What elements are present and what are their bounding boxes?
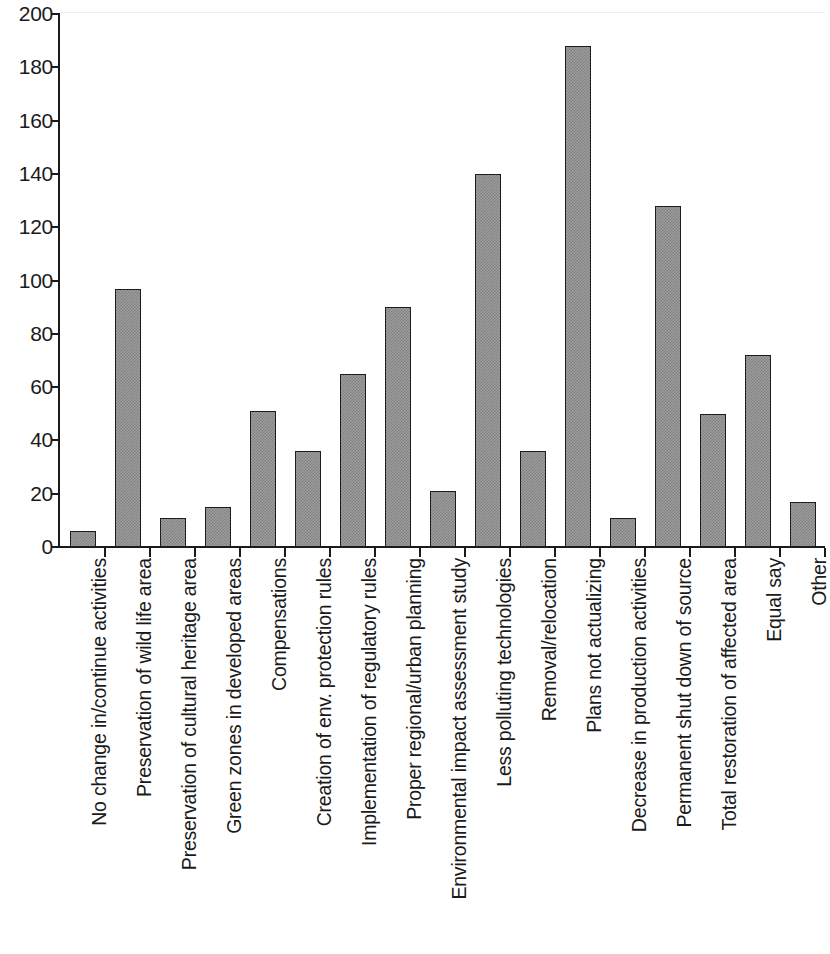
x-axis-label: Implementation of regulatory rules	[360, 558, 380, 846]
y-axis-tick	[52, 226, 60, 228]
y-axis-tick	[52, 439, 60, 441]
x-axis-label-text: Green zones in developed areas	[225, 558, 245, 834]
x-axis-tick	[644, 548, 646, 557]
x-axis-label-text: Equal say	[765, 558, 785, 642]
bar	[160, 518, 186, 547]
x-axis-label: No change in/continue activities	[90, 558, 110, 826]
y-axis-tick-label: 20	[0, 483, 53, 504]
x-axis-label-text: No change in/continue activities	[90, 558, 110, 826]
x-axis-label-text: Other	[810, 558, 830, 606]
x-axis-label: Compensations	[270, 558, 290, 691]
x-axis-tick	[239, 548, 241, 557]
bar	[475, 174, 501, 547]
x-axis-label-text: Proper regional/urban planning	[405, 558, 425, 820]
x-axis-tick	[689, 548, 691, 557]
x-axis-label: Preservation of wild life area	[135, 558, 155, 797]
bar	[205, 507, 231, 547]
x-axis-label-text: Preservation of wild life area	[135, 558, 155, 797]
y-axis-tick	[52, 546, 60, 548]
bar	[610, 518, 636, 547]
y-axis-tick	[52, 66, 60, 68]
y-axis-tick-label: 60	[0, 376, 53, 397]
x-axis-label: Plans not actualizing	[585, 558, 605, 733]
x-axis-label: Removal/relocation	[540, 558, 560, 721]
bar	[250, 411, 276, 547]
x-axis-tick	[374, 548, 376, 557]
x-axis-label-text: Decrease in production activities	[630, 558, 650, 832]
y-axis-tick-label: 0	[0, 536, 53, 557]
x-axis-label-text: Total restoration of affected area	[720, 558, 740, 831]
x-axis-label: Proper regional/urban planning	[405, 558, 425, 820]
x-axis-label: Permanent shut down of source	[675, 558, 695, 828]
y-axis-tick-label: 40	[0, 429, 53, 450]
bar	[790, 502, 816, 547]
bar	[340, 374, 366, 547]
y-axis-tick-label: 80	[0, 323, 53, 344]
y-axis-tick-label: 200	[0, 3, 53, 24]
x-axis-tick	[104, 548, 106, 557]
x-axis-tick	[329, 548, 331, 557]
y-axis-tick-label: 100	[0, 270, 53, 291]
x-axis-label-text: Compensations	[270, 558, 290, 691]
y-axis-tick	[52, 120, 60, 122]
x-axis-label: Environmental impact assessment study	[450, 558, 470, 900]
y-axis-tick	[52, 173, 60, 175]
y-axis-tick-label: 180	[0, 56, 53, 77]
x-axis-labels: No change in/continue activitiesPreserva…	[60, 558, 825, 950]
x-axis-label: Preservation of cultural heritage area	[180, 558, 200, 870]
x-axis-label-text: Environmental impact assessment study	[450, 558, 470, 900]
bar	[745, 355, 771, 547]
y-axis-tick	[52, 386, 60, 388]
x-axis-tick	[194, 548, 196, 557]
y-axis-tick-label: 120	[0, 216, 53, 237]
x-axis-tick	[284, 548, 286, 557]
y-axis-tick	[52, 280, 60, 282]
bar	[385, 307, 411, 547]
bar	[700, 414, 726, 547]
x-axis-label: Equal say	[765, 558, 785, 642]
x-axis-label-text: Permanent shut down of source	[675, 558, 695, 828]
bar	[70, 531, 96, 547]
bar	[565, 46, 591, 547]
x-axis-tick	[779, 548, 781, 557]
bar	[430, 491, 456, 547]
x-axis-tick	[464, 548, 466, 557]
x-axis-label: Total restoration of affected area	[720, 558, 740, 831]
x-axis-tick	[419, 548, 421, 557]
y-axis-tick	[52, 333, 60, 335]
x-axis-tick	[149, 548, 151, 557]
x-axis-label: Creation of env. protection rules	[315, 558, 335, 826]
x-axis-label: Green zones in developed areas	[225, 558, 245, 834]
x-axis-tick	[824, 548, 826, 557]
scan-artifact-line	[60, 12, 825, 13]
bar	[520, 451, 546, 547]
x-axis-label-text: Creation of env. protection rules	[315, 558, 335, 826]
bar	[295, 451, 321, 547]
x-axis-tick	[509, 548, 511, 557]
y-axis-tick	[52, 13, 60, 15]
x-axis-tick	[734, 548, 736, 557]
bar	[655, 206, 681, 547]
x-axis-label-text: Removal/relocation	[540, 558, 560, 721]
plot-area: 020406080100120140160180200	[60, 14, 825, 547]
x-axis-tick	[599, 548, 601, 557]
y-axis-tick-label: 160	[0, 110, 53, 131]
x-axis-tick	[554, 548, 556, 557]
x-axis-label-text: Plans not actualizing	[585, 558, 605, 733]
y-axis-tick-label: 140	[0, 163, 53, 184]
x-axis-label: Other	[810, 558, 830, 606]
x-axis-label-text: Implementation of regulatory rules	[360, 558, 380, 846]
x-axis-label-text: Less polluting technologies	[495, 558, 515, 787]
bar	[115, 289, 141, 548]
x-axis-label: Less polluting technologies	[495, 558, 515, 787]
x-axis-label: Decrease in production activities	[630, 558, 650, 832]
x-axis-label-text: Preservation of cultural heritage area	[180, 558, 200, 870]
y-axis-tick	[52, 493, 60, 495]
